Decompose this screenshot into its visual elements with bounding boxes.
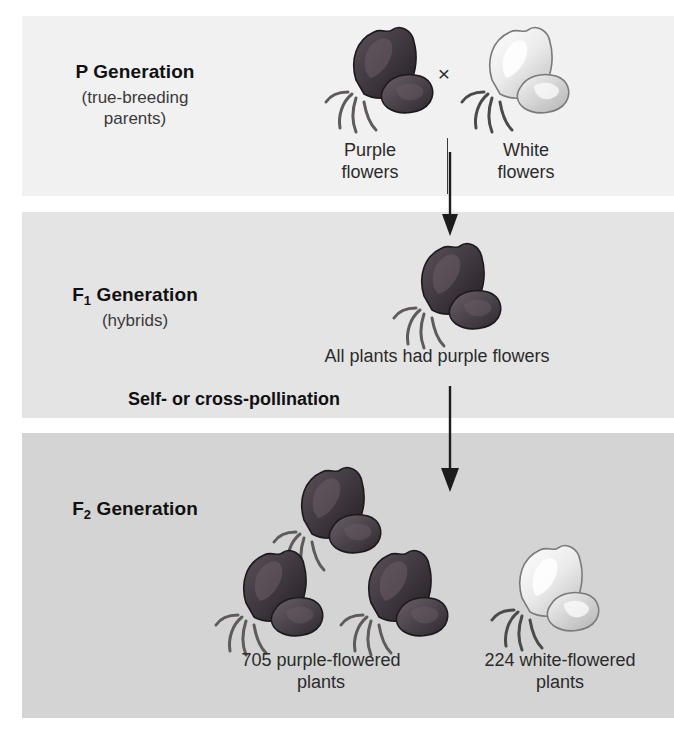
caption-f2-white-plants-line2: plants — [452, 672, 668, 694]
f1-generation-title-prefix: F — [72, 284, 84, 305]
caption-purple-flowers-p-line1: Purple — [344, 140, 396, 160]
caption-white-flowers-p-line1: White — [503, 140, 549, 160]
flower-white-f2-right — [488, 540, 608, 660]
p-generation-title: P Generation — [26, 60, 244, 84]
flower-purple-f2-middle — [337, 545, 457, 665]
caption-f2-white-plants-line1: 224 white-flowered — [484, 650, 635, 670]
caption-f1-result: All plants had purple flowers — [272, 346, 602, 368]
caption-white-flowers-p-line2: flowers — [474, 162, 578, 184]
arrow-f1-to-f2 — [430, 384, 470, 496]
cross-symbol: × — [431, 62, 457, 86]
f1-generation-subtitle-line1: (hybrids) — [102, 311, 168, 330]
p-generation-subtitle-line2: parents) — [26, 108, 244, 129]
f2-generation-title-subscript: 2 — [84, 507, 91, 522]
label-f2-generation: F2 Generation — [26, 497, 244, 521]
f2-generation-title: F2 Generation — [26, 497, 244, 521]
f1-generation-title: F1 Generation — [26, 283, 244, 307]
caption-white-flowers-p: White flowers — [474, 140, 578, 184]
flower-white-p-generation — [458, 22, 578, 142]
caption-purple-flowers-p-line2: flowers — [318, 162, 422, 184]
pollination-label: Self- or cross-pollination — [128, 389, 340, 410]
label-p-generation: P Generation (true-breeding parents) — [26, 60, 244, 129]
f2-generation-title-rest: Generation — [91, 498, 198, 519]
mendel-cross-diagram: P Generation (true-breeding parents) F1 … — [0, 0, 674, 731]
caption-f2-purple-plants-line1: 705 purple-flowered — [241, 650, 400, 670]
caption-f2-purple-plants-line2: plants — [196, 672, 446, 694]
p-generation-title-text: P Generation — [75, 61, 194, 82]
caption-purple-flowers-p: Purple flowers — [318, 140, 422, 184]
caption-f2-white-plants: 224 white-flowered plants — [452, 650, 668, 694]
arrow-p-to-f1 — [430, 150, 470, 240]
p-generation-subtitle: (true-breeding parents) — [26, 87, 244, 130]
flower-purple-f2-left — [212, 545, 332, 665]
flower-purple-p-generation — [322, 22, 442, 142]
f1-generation-subtitle: (hybrids) — [26, 310, 244, 331]
caption-f1-result-text: All plants had purple flowers — [324, 346, 549, 366]
f1-generation-title-subscript: 1 — [84, 293, 91, 308]
f2-generation-title-prefix: F — [72, 498, 84, 519]
f1-generation-title-rest: Generation — [91, 284, 198, 305]
label-f1-generation: F1 Generation (hybrids) — [26, 283, 244, 331]
p-generation-subtitle-line1: (true-breeding — [82, 88, 189, 107]
flower-purple-f1-generation — [390, 238, 510, 358]
caption-f2-purple-plants: 705 purple-flowered plants — [196, 650, 446, 694]
